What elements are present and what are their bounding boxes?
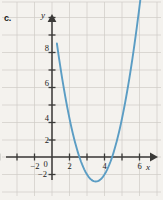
x-axis-label: x [146,163,150,172]
y-axis-label: y [41,11,45,20]
x-tick-label-6: 6 [134,162,145,171]
y-tick-label-8: 8 [38,44,49,53]
y-axis [48,14,57,180]
y-tick-label-6: 6 [38,79,49,88]
y-tick-label--2: −2 [33,170,47,179]
part-label: c. [4,13,11,23]
y-tick-label-4: 4 [38,114,49,123]
graph-figure: c. [0,0,163,200]
x-tick-label-0: 0 [41,160,50,169]
x-tick-label-4: 4 [99,162,110,171]
x-axis [6,153,158,162]
y-tick-label-2: 2 [38,136,49,145]
x-tick-label-2: 2 [64,162,75,171]
